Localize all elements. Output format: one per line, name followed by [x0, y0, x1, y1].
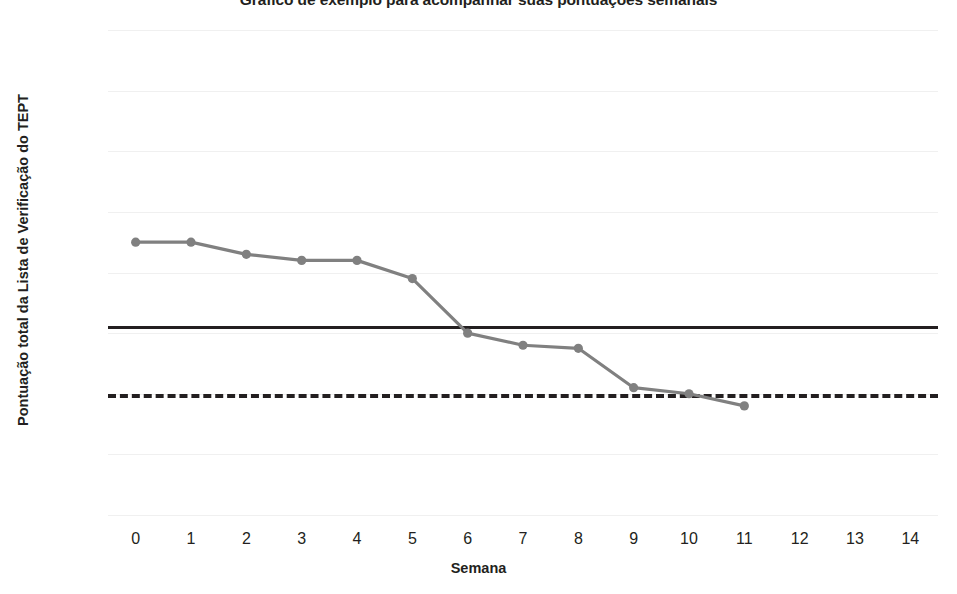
- data-point-marker: [242, 250, 251, 259]
- plot-area: 01020304050607080 01234567891011121314: [108, 30, 938, 515]
- data-point-marker: [463, 329, 472, 338]
- x-tick-label: 2: [226, 530, 266, 548]
- data-series-line: [108, 30, 938, 515]
- x-tick-label: 0: [116, 530, 156, 548]
- x-tick-label: 7: [503, 530, 543, 548]
- data-point-marker: [684, 389, 693, 398]
- x-tick-label: 1: [171, 530, 211, 548]
- data-point-marker: [408, 274, 417, 283]
- x-tick-label: 6: [448, 530, 488, 548]
- data-point-marker: [297, 256, 306, 265]
- data-point-marker: [574, 344, 583, 353]
- data-point-marker: [518, 341, 527, 350]
- x-tick-label: 13: [835, 530, 875, 548]
- chart-title: Gráfico de exemplo para acompanhar suas …: [0, 0, 957, 9]
- x-tick-label: 4: [337, 530, 377, 548]
- y-axis-title: Pontuação total da Lista de Verificação …: [12, 0, 34, 520]
- x-tick-label: 11: [724, 530, 764, 548]
- x-tick-label: 10: [669, 530, 709, 548]
- x-tick-label: 9: [614, 530, 654, 548]
- x-tick-label: 8: [558, 530, 598, 548]
- x-tick-label: 3: [282, 530, 322, 548]
- data-point-marker: [186, 238, 195, 247]
- data-point-marker: [740, 401, 749, 410]
- series-line: [136, 242, 745, 406]
- data-point-marker: [352, 256, 361, 265]
- data-point-marker: [629, 383, 638, 392]
- chart-container: Gráfico de exemplo para acompanhar suas …: [0, 0, 957, 594]
- gridline-y: [108, 515, 938, 516]
- x-tick-label: 14: [890, 530, 930, 548]
- x-tick-label: 12: [780, 530, 820, 548]
- data-point-marker: [131, 238, 140, 247]
- x-tick-label: 5: [392, 530, 432, 548]
- x-axis-title: Semana: [0, 560, 957, 576]
